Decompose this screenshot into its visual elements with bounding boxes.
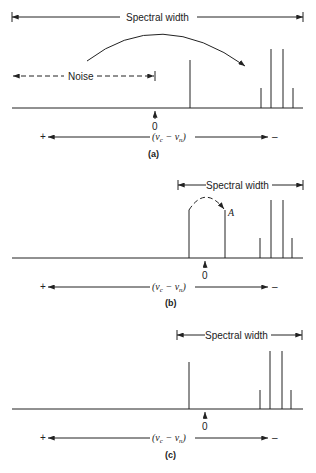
frequency-axis: + (νc − νn) –	[40, 281, 278, 294]
spectral-width-label: Spectral width	[205, 330, 268, 341]
panel-c: Spectral width 0 + (νc − νn) – (c)	[12, 330, 303, 460]
peaks	[190, 49, 293, 108]
axis-plus: +	[40, 281, 46, 292]
panel-b: Spectral width A 0 + (νc − νn) – (b)	[12, 180, 303, 308]
spectral-folding-diagram: Spectral width Noise 0 + (νc − νn)	[0, 0, 316, 473]
folding-arrow	[87, 34, 245, 66]
peak-label-a: A	[227, 207, 235, 218]
peaks	[189, 200, 292, 258]
noise-range: Noise	[13, 71, 155, 82]
zero-label: 0	[202, 270, 208, 281]
axis-minus: –	[272, 131, 278, 142]
spectral-width-label: Spectral width	[206, 180, 269, 191]
axis-plus: +	[40, 432, 46, 443]
axis-plus: +	[40, 131, 46, 142]
axis-label: (νc − νn)	[152, 281, 187, 294]
noise-label: Noise	[68, 71, 94, 82]
caption-c: (c)	[165, 450, 176, 460]
axis-label: (νc − νn)	[152, 432, 187, 445]
axis-minus: –	[272, 281, 278, 292]
fold-arrow	[189, 197, 224, 210]
frequency-axis: + (νc − νn) –	[40, 432, 278, 445]
spectral-width-bar: Spectral width	[177, 330, 302, 341]
spectral-width-label: Spectral width	[126, 12, 189, 23]
caption-b: (b)	[165, 298, 177, 308]
panel-a: Spectral width Noise 0 + (νc − νn)	[12, 12, 303, 159]
axis-label: (νc − νn)	[152, 131, 187, 144]
spectral-width-bar: Spectral width	[178, 180, 303, 191]
axis-minus: –	[272, 432, 278, 443]
spectral-width-bar: Spectral width	[12, 12, 303, 23]
caption-a: (a)	[148, 149, 159, 159]
zero-label: 0	[202, 421, 208, 432]
frequency-axis: + (νc − νn) –	[40, 131, 278, 144]
peaks	[189, 351, 291, 409]
